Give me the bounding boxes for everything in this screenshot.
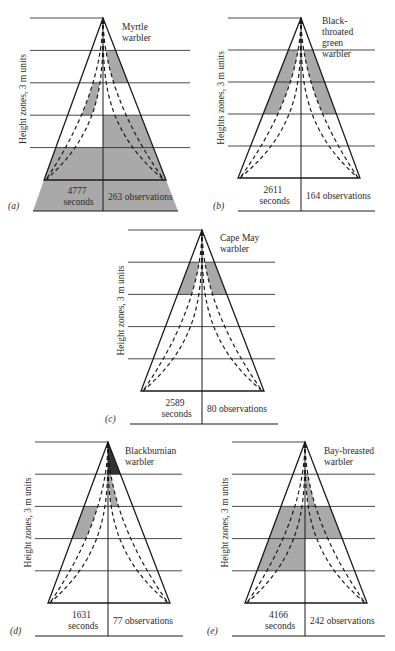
observations-label: 80 observations [207,404,267,414]
species-label: warbler [122,33,152,43]
seconds-label: seconds [265,621,295,631]
seconds-value: 4777 [68,186,87,196]
y-axis-label: Height zones, 3 m units [23,477,33,567]
observations-label: 263 observations [108,192,173,202]
seconds-value: 4166 [269,610,288,620]
y-axis-label: Height zones, 3 m units [220,477,230,567]
panel-letter: (b) [213,201,224,212]
species-label: Cape May [220,233,260,243]
species-label: throated [322,27,353,37]
panel-d: BlackburnianwarblerHeight zones, 3 m uni… [10,442,183,637]
y-axis-label: Height zones, 3 m units [18,54,28,144]
observations-label: 242 observations [310,616,375,626]
species-label: Black- [322,16,347,26]
seconds-label: seconds [162,409,192,419]
species-label: warbler [125,457,155,467]
shaded-zone [108,474,118,506]
panel-a: MyrtlewarblerHeight zones, 3 m units4777… [8,18,190,212]
species-label: warbler [220,244,250,254]
seconds-value: 2589 [166,398,185,408]
shaded-zone [103,148,166,180]
observations-label: 164 observations [306,191,371,201]
shaded-zone [311,82,336,114]
shaded-zone [263,82,290,114]
warbler-height-zone-figure: MyrtlewarblerHeight zones, 3 m units4777… [0,0,395,651]
y-axis-label: Height zones, 3 m units [116,265,126,355]
shaded-zone [305,474,315,506]
panel-letter: (c) [105,414,116,425]
seconds-value: 2611 [264,185,283,195]
species-label: Blackburnian [125,446,176,456]
shaded-zone [44,148,103,180]
panel-letter: (d) [10,626,21,637]
seconds-label: seconds [68,621,98,631]
observations-label: 77 observations [113,616,173,626]
panel-c: Cape MaywarblerHeight zones, 3 m units25… [105,230,278,425]
shaded-zone [81,83,100,115]
panel-e: Bay-breastedwarblerHeight zones, 3 m uni… [207,442,385,637]
seconds-value: 1631 [72,610,91,620]
seconds-label: seconds [260,196,290,206]
panel-b: Black-throatedgreenwarblerHeights zones,… [213,16,375,212]
y-axis-label: Heights zones, 3 m units [216,51,226,145]
species-label: green [322,38,343,48]
seconds-label: seconds [64,197,94,207]
shaded-zone [257,539,305,571]
panel-letter: (a) [8,201,19,212]
species-label: Myrtle [122,22,148,32]
panel-letter: (e) [207,626,218,637]
species-label: warbler [324,457,354,467]
species-label: warbler [322,49,352,59]
shaded-zone [72,506,98,538]
species-label: Bay-breasted [324,446,374,456]
